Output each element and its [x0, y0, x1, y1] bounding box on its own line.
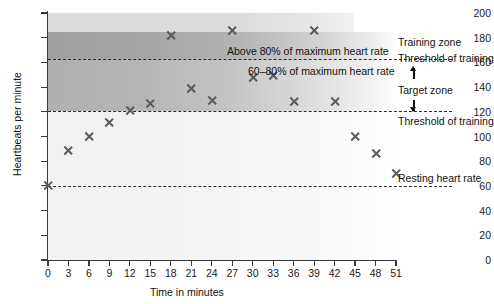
y-tick [41, 235, 47, 236]
data-point-marker [124, 105, 135, 116]
x-tick [314, 261, 315, 266]
data-point-marker [145, 98, 156, 109]
x-tick [293, 261, 294, 266]
x-tick-label: 21 [181, 268, 201, 279]
x-tick [334, 261, 335, 266]
cropped-title-remnant [0, 0, 491, 5]
arrow-up-icon [409, 66, 418, 80]
x-tick [211, 261, 212, 266]
y-tick [41, 37, 47, 38]
label-60-80: 60–80% of maximum heart rate [248, 65, 395, 77]
y-tick [41, 111, 47, 112]
x-tick-label: 30 [243, 268, 263, 279]
y-tick [41, 136, 47, 137]
x-tick [252, 261, 253, 266]
x-tick-label: 24 [202, 268, 222, 279]
arrow-down-icon [409, 98, 418, 112]
legend-target-zone: Target zone [398, 84, 453, 97]
y-tick-label: 20 [453, 230, 491, 241]
x-tick [170, 261, 171, 266]
x-axis-line [47, 260, 397, 261]
data-point-marker [165, 30, 176, 41]
legend-threshold-upper: Threshold of training [398, 52, 494, 65]
data-point-marker [350, 131, 361, 142]
data-point-marker [206, 95, 217, 106]
y-tick-label: 200 [453, 8, 491, 19]
x-tick [47, 261, 48, 266]
x-tick-label: 42 [325, 268, 345, 279]
y-tick-label: 80 [453, 156, 491, 167]
x-tick-label: 9 [99, 268, 119, 279]
y-tick [41, 161, 47, 162]
x-tick [68, 261, 69, 266]
reference-line-upper-threshold [48, 59, 452, 60]
x-tick-label: 48 [366, 268, 386, 279]
x-tick-label: 51 [386, 268, 406, 279]
data-point-marker [43, 180, 54, 191]
x-tick [88, 261, 89, 266]
data-point-marker [104, 117, 115, 128]
x-tick-label: 12 [120, 268, 140, 279]
data-point-marker [309, 25, 320, 36]
data-point-marker [186, 83, 197, 94]
x-tick-label: 36 [284, 268, 304, 279]
x-tick [354, 261, 355, 266]
reference-line-lower-threshold [48, 111, 452, 112]
y-tick [41, 210, 47, 211]
x-tick [109, 261, 110, 266]
x-tick-label: 45 [345, 268, 365, 279]
x-tick [395, 261, 396, 266]
y-axis-line [47, 11, 48, 262]
y-tick [41, 12, 47, 13]
x-tick [191, 261, 192, 266]
reference-line-resting-rate [48, 186, 452, 187]
legend-resting-heart-rate: Resting heart rate [398, 172, 486, 185]
y-tick-label: 100 [453, 132, 491, 143]
data-point-marker [83, 131, 94, 142]
y-tick-label: 40 [453, 206, 491, 217]
data-point-marker [63, 145, 74, 156]
x-tick [150, 261, 151, 266]
legend-threshold-lower: Threshold of training [398, 115, 494, 128]
legend-training-zone: Training zone [398, 36, 461, 49]
x-tick-label: 6 [79, 268, 99, 279]
y-axis-title: Heartbeats per minute [11, 64, 23, 184]
x-tick-label: 15 [140, 268, 160, 279]
x-tick-label: 33 [263, 268, 283, 279]
y-tick-label: 0 [453, 255, 491, 266]
data-point-marker [329, 96, 340, 107]
x-tick-label: 3 [58, 268, 78, 279]
x-tick [129, 261, 130, 266]
data-point-marker [370, 148, 381, 159]
data-point-marker [227, 25, 238, 36]
x-tick-label: 39 [304, 268, 324, 279]
y-tick-label: 140 [453, 82, 491, 93]
label-above-80: Above 80% of maximum heart rate [227, 45, 389, 57]
x-tick [273, 261, 274, 266]
y-tick [41, 62, 47, 63]
data-point-marker [288, 96, 299, 107]
x-tick [375, 261, 376, 266]
x-tick-label: 18 [161, 268, 181, 279]
x-tick-label: 27 [222, 268, 242, 279]
y-tick [41, 259, 47, 260]
x-axis-title: Time in minutes [150, 286, 224, 298]
y-tick [41, 87, 47, 88]
x-tick [232, 261, 233, 266]
x-tick-label: 0 [38, 268, 58, 279]
